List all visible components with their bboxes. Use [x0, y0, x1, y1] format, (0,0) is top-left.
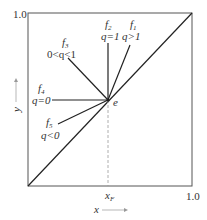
f4-condition: q=0 [32, 94, 51, 106]
xf-label: xF [104, 189, 115, 203]
line-f3 [68, 58, 108, 100]
f5-condition: q<0 [41, 129, 60, 141]
y-axis-label: y [10, 107, 22, 113]
f5-name: f5 [46, 116, 53, 130]
f1-condition: q>1 [122, 30, 140, 42]
f2-condition: q=1 [101, 30, 119, 42]
f3-condition: 0<q<1 [47, 48, 76, 60]
line-f1 [108, 45, 130, 100]
point-e [107, 99, 110, 102]
q-line-diagram: e f1 q>1 f2 q=1 f3 0<q<1 f4 q=0 f5 q<0 1… [0, 0, 207, 220]
x-arrowhead-icon [124, 208, 128, 212]
point-e-label: e [113, 96, 118, 108]
x-axis-label: x [93, 203, 99, 215]
y-arrowhead-icon [14, 78, 18, 82]
x-max-label: 1.0 [186, 190, 200, 202]
y-max-label: 1.0 [13, 8, 27, 20]
line-f5 [58, 100, 108, 124]
